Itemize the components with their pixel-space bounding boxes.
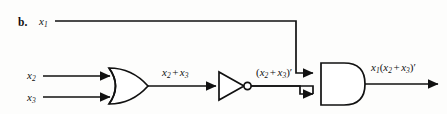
wire-not-to-and	[250, 86, 313, 94]
input-label-x3: x3	[27, 92, 36, 104]
logic-circuit-figure: b.	[0, 0, 447, 114]
circuit-diagram-svg	[0, 0, 447, 114]
input-label-x1: x1	[39, 16, 48, 28]
not-gate-output-label: (x2+x3)′	[256, 67, 292, 79]
not-gate-triangle	[219, 72, 244, 100]
wire-not-to-and-seg1	[250, 86, 313, 94]
not-gate-bubble	[244, 82, 251, 89]
and-gate-output-label: x1(x2+x3)′	[371, 62, 416, 74]
and-gate-shape	[321, 63, 365, 105]
input-label-x2: x2	[27, 70, 36, 82]
or-gate-output-label: x2+x3	[162, 67, 189, 79]
